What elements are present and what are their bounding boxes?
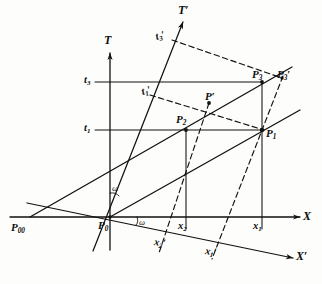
angle-label-omega-x: ω bbox=[139, 218, 145, 227]
angle-arc-omega-x bbox=[136, 217, 138, 225]
tick-label-x1-primed: x1′ bbox=[204, 246, 217, 260]
tick-label-t3: t3 bbox=[84, 75, 90, 87]
worldline-upper bbox=[30, 67, 292, 217]
tick-label-x1: x1 bbox=[253, 221, 262, 233]
point-dot-origin bbox=[108, 215, 111, 218]
point-label-P00: P00 bbox=[11, 222, 25, 235]
axis-label-X: X bbox=[303, 210, 311, 222]
axis-label-T-primed: T′ bbox=[178, 4, 189, 16]
point-label-P3-primed: P3′ bbox=[277, 69, 290, 82]
angle-label-omega-t: ω bbox=[112, 184, 118, 193]
dashed-x1prime-projection bbox=[212, 76, 283, 259]
axis-label-X-primed: X′ bbox=[296, 250, 307, 262]
point-label-P1: P1 bbox=[266, 128, 276, 141]
tick-label-t1: t1 bbox=[84, 123, 90, 135]
point-dot-P1 bbox=[260, 128, 264, 132]
tick-label-x2-primed: x2′ bbox=[153, 237, 166, 251]
point-label-P2: P2 bbox=[176, 114, 186, 127]
point-dot-P2 bbox=[184, 128, 188, 132]
axis-label-T: T bbox=[104, 34, 111, 46]
point-label-P3: P3 bbox=[252, 69, 262, 82]
spacetime-diagram-figure: T X T′ X′ ω ω P00 P0 P1 P2 P3 P′ P3′ t3 … bbox=[0, 0, 322, 284]
tick-label-x2: x2 bbox=[178, 221, 187, 233]
dashed-t3prime-to-P3prime bbox=[172, 40, 282, 78]
point-label-P-primed: P′ bbox=[205, 91, 215, 102]
point-label-P0: P0 bbox=[98, 220, 108, 233]
